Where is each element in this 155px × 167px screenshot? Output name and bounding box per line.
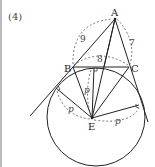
label-e: E (88, 121, 95, 132)
segment-a-bc (104, 19, 115, 67)
radius-label-right: p (115, 116, 121, 126)
length-ab: 9 (80, 34, 86, 44)
radius-label-top: p (84, 85, 90, 95)
label-b: B (64, 63, 71, 74)
right-angle-left (58, 86, 60, 91)
geometry-diagram: (4) A B C E 9 8 7 p p p (0, 0, 155, 167)
length-ac: 7 (129, 38, 135, 48)
point-e (91, 117, 94, 120)
label-c: C (131, 63, 139, 74)
problem-tag: (4) (8, 11, 22, 22)
radius-label-left: p (68, 104, 74, 114)
arc-ab (73, 19, 113, 64)
length-bc: 8 (97, 54, 103, 64)
point-a (114, 18, 117, 21)
label-a: A (110, 7, 119, 18)
left-border (0, 0, 2, 167)
